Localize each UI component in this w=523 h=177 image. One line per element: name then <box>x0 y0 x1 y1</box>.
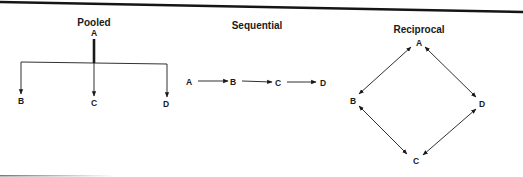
reciprocal-edge-a-b <box>359 47 411 94</box>
reciprocal-diagram: Reciprocal A B D C <box>350 24 485 166</box>
sequential-title: Sequential <box>232 20 283 31</box>
bottom-border-line <box>0 175 115 177</box>
sequential-node-a: A <box>186 77 192 87</box>
reciprocal-node-a: A <box>416 38 422 48</box>
reciprocal-node-c: C <box>413 156 419 166</box>
reciprocal-node-b: B <box>350 96 356 106</box>
pooled-node-c: C <box>91 98 97 108</box>
reciprocal-edge-a-d <box>425 47 476 97</box>
reciprocal-title: Reciprocal <box>393 24 444 35</box>
sequential-diagram: Sequential A B C D <box>186 20 326 88</box>
sequential-node-d: D <box>320 78 326 88</box>
top-border-line <box>0 2 523 12</box>
sequential-node-c: C <box>275 78 281 88</box>
reciprocal-edge-c-d <box>423 109 476 155</box>
pooled-node-b: B <box>18 96 24 106</box>
reciprocal-node-d: D <box>479 99 485 109</box>
pooled-diagram: Pooled A B C D <box>18 17 169 109</box>
reciprocal-edge-b-c <box>359 106 407 154</box>
pooled-node-d: D <box>163 99 169 109</box>
sequential-node-b: B <box>230 77 236 87</box>
pooled-title: Pooled <box>77 17 110 28</box>
sequential-edge-b-c <box>242 81 272 82</box>
pooled-node-a: A <box>91 28 97 38</box>
interdependence-diagram: Pooled A B C D Sequential A B C D Recipr… <box>0 0 523 177</box>
